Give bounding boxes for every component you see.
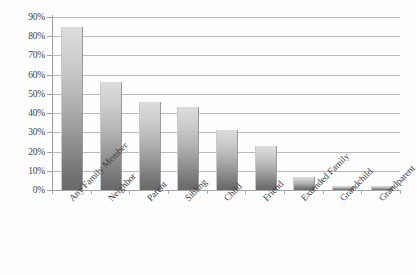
y-tick-label-60: 60% <box>1 70 45 80</box>
bar-parent[interactable] <box>139 102 161 190</box>
x-axis-tick <box>400 190 401 194</box>
y-tick-label-10: 10% <box>1 166 45 176</box>
y-tick-label-90: 90% <box>1 12 45 22</box>
y-axis-labels: 90% 80% 70% 60% 50% 40% 30% 20% 10% 0% <box>0 0 45 275</box>
bar-any-family-member[interactable] <box>61 27 83 190</box>
gridline-70 <box>52 55 400 56</box>
bar-neighbor[interactable] <box>100 82 122 190</box>
x-axis-tick <box>91 190 92 194</box>
x-axis-tick <box>284 190 285 194</box>
y-tick-label-80: 80% <box>1 31 45 41</box>
y-tick-label-30: 30% <box>1 127 45 137</box>
y-tick-label-20: 20% <box>1 147 45 157</box>
x-axis-tick <box>52 190 53 194</box>
y-tick-label-50: 50% <box>1 89 45 99</box>
x-axis-tick <box>207 190 208 194</box>
gridline-60 <box>52 75 400 76</box>
x-axis-tick <box>323 190 324 194</box>
x-axis-tick <box>245 190 246 194</box>
gridline-90 <box>52 17 400 18</box>
x-axis-tick <box>129 190 130 194</box>
y-tick-label-0: 0% <box>1 185 45 195</box>
bar-sibling[interactable] <box>177 107 199 190</box>
gridline-80 <box>52 36 400 37</box>
x-axis-tick <box>361 190 362 194</box>
bar-child[interactable] <box>216 130 238 190</box>
y-tick-label-70: 70% <box>1 50 45 60</box>
x-axis-tick <box>168 190 169 194</box>
y-tick-label-40: 40% <box>1 108 45 118</box>
